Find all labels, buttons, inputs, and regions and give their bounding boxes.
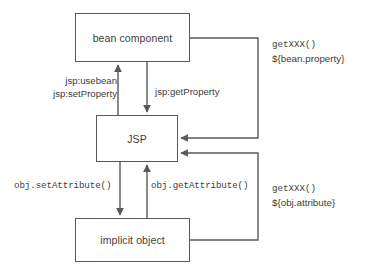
edge-label-getattribute: obj.getAttribute() xyxy=(151,180,248,193)
annotation-bean-expression: getXXX() ${bean.property} xyxy=(272,38,344,66)
edge-label-getproperty: jsp:getProperty xyxy=(155,86,220,99)
edge-label-setproperty-line: jsp:setProperty xyxy=(37,88,117,101)
annotation-obj-expression: getXXX() ${obj.attribute} xyxy=(272,182,335,210)
annotation-obj-el: ${obj.attribute} xyxy=(272,196,335,210)
node-bean-component-label: bean component xyxy=(93,32,173,44)
node-bean-component: bean component xyxy=(75,13,190,62)
annotation-obj-getter: getXXX() xyxy=(272,182,335,196)
edge-label-setattribute-line: obj.setAttribute() xyxy=(14,180,111,193)
edge-label-setattribute: obj.setAttribute() xyxy=(14,180,111,193)
node-implicit-object: implicit object xyxy=(75,218,190,262)
node-jsp-label: JSP xyxy=(127,133,147,145)
node-jsp: JSP xyxy=(96,115,178,162)
annotation-bean-getter: getXXX() xyxy=(272,38,344,52)
diagram-canvas: bean component JSP implicit object jsp:u… xyxy=(0,0,368,275)
edge-label-getattribute-line: obj.getAttribute() xyxy=(151,180,248,193)
edge-label-usebean-setproperty: jsp:usebean jsp:setProperty xyxy=(37,75,117,100)
edge-label-getproperty-line: jsp:getProperty xyxy=(155,86,220,99)
annotation-bean-el: ${bean.property} xyxy=(272,52,344,66)
edge-label-usebean-line: jsp:usebean xyxy=(37,75,117,88)
node-implicit-object-label: implicit object xyxy=(100,234,165,246)
connector-implicit-el-loop xyxy=(181,153,258,240)
